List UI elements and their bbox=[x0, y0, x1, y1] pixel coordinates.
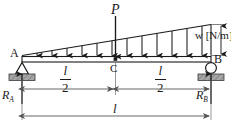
distributed-load-label: w [N/m] bbox=[195, 30, 231, 41]
midpoint-c-marker bbox=[114, 57, 118, 61]
distributed-load-group bbox=[22, 25, 211, 56]
dim-label-right-half: l 2 bbox=[155, 64, 166, 94]
support-a-label: A bbox=[10, 47, 19, 59]
c-node-dot bbox=[114, 57, 118, 61]
right-half-numerator: l bbox=[155, 64, 166, 78]
beam-diagram-figure: P A B C w [N/m] RA RB l 2 l 2 l bbox=[0, 0, 231, 130]
midpoint-c-label: C bbox=[110, 63, 117, 74]
point-load-label: P bbox=[111, 3, 120, 17]
support-b-label: B bbox=[214, 53, 222, 65]
dim-label-full-span: l bbox=[113, 102, 117, 115]
right-half-denominator: 2 bbox=[155, 81, 166, 95]
reaction-a-subscript: A bbox=[9, 95, 14, 104]
pin-triangle bbox=[16, 63, 29, 75]
left-half-denominator: 2 bbox=[60, 81, 71, 95]
reaction-b-subscript: B bbox=[203, 95, 208, 104]
left-half-numerator: l bbox=[60, 64, 71, 78]
load-envelope-line bbox=[22, 25, 211, 56]
reaction-a-label: RA bbox=[2, 89, 14, 104]
reaction-b-label: RB bbox=[196, 89, 208, 104]
dim-label-left-half: l 2 bbox=[60, 64, 71, 94]
